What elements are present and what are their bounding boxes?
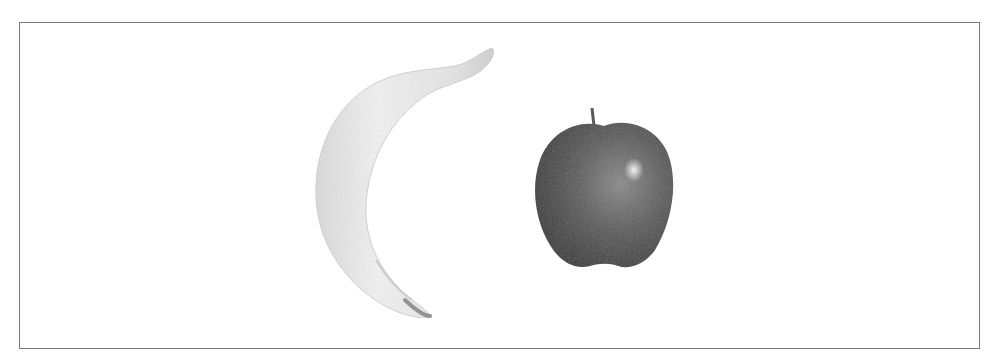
apple: [535, 108, 673, 267]
fruit-photo: [0, 0, 1000, 364]
apple-stem: [592, 108, 594, 126]
banana: [316, 48, 494, 318]
